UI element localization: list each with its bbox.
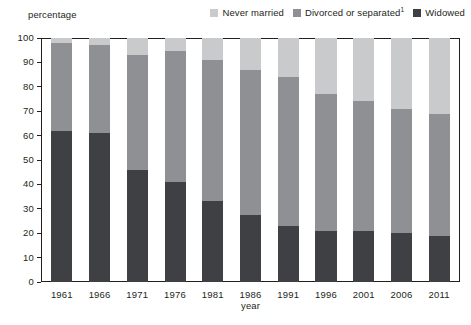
bar-segment-divorced-or-separated[interactable] bbox=[429, 114, 450, 236]
bar-segment-divorced-or-separated[interactable] bbox=[165, 51, 186, 182]
bar-slot bbox=[420, 38, 458, 282]
legend-label-never-married: Never married bbox=[222, 8, 283, 18]
bar-slot bbox=[43, 38, 81, 282]
stacked-bar[interactable] bbox=[240, 38, 261, 282]
bar-segment-widowed[interactable] bbox=[353, 231, 374, 282]
bar-segment-never-married[interactable] bbox=[127, 38, 148, 55]
legend-item-never-married[interactable]: Never married bbox=[210, 8, 283, 18]
bar-slot bbox=[156, 38, 194, 282]
bar-segment-never-married[interactable] bbox=[202, 38, 223, 60]
legend-swatch-divorced-or-separated bbox=[293, 9, 301, 17]
bar-segment-widowed[interactable] bbox=[202, 201, 223, 282]
bar-slot bbox=[194, 38, 232, 282]
legend-footnote-marker: 1 bbox=[401, 6, 405, 13]
bar-slot bbox=[345, 38, 383, 282]
bar-segment-never-married[interactable] bbox=[165, 38, 186, 51]
bar-segment-never-married[interactable] bbox=[353, 38, 374, 101]
stacked-bar[interactable] bbox=[89, 38, 110, 282]
y-axis-tick-label: 70 bbox=[23, 105, 34, 116]
bar-slot bbox=[307, 38, 345, 282]
y-axis-tick-label: 10 bbox=[23, 252, 34, 263]
bar-segment-widowed[interactable] bbox=[240, 215, 261, 282]
bar-segment-divorced-or-separated[interactable] bbox=[202, 60, 223, 202]
bar-segment-never-married[interactable] bbox=[391, 38, 412, 109]
stacked-bar[interactable] bbox=[315, 38, 336, 282]
bar-slot bbox=[269, 38, 307, 282]
x-axis-title: year bbox=[41, 300, 460, 311]
bar-segment-never-married[interactable] bbox=[278, 38, 299, 77]
bar-segment-divorced-or-separated[interactable] bbox=[51, 43, 72, 131]
bar-segment-widowed[interactable] bbox=[127, 170, 148, 282]
bar-segment-never-married[interactable] bbox=[89, 38, 110, 45]
y-axis-tick-label: 90 bbox=[23, 56, 34, 67]
stacked-bar[interactable] bbox=[127, 38, 148, 282]
y-axis-tick-label: 80 bbox=[23, 81, 34, 92]
legend-label-divorced-or-separated: Divorced or separated1 bbox=[305, 8, 404, 18]
bar-group bbox=[41, 38, 460, 282]
bar-segment-divorced-or-separated[interactable] bbox=[240, 70, 261, 215]
bar-slot bbox=[232, 38, 270, 282]
stacked-bar[interactable] bbox=[278, 38, 299, 282]
y-axis-tick-label: 0 bbox=[29, 276, 34, 287]
bar-segment-widowed[interactable] bbox=[429, 236, 450, 282]
plot-area-wrapper bbox=[41, 38, 460, 282]
bar-segment-widowed[interactable] bbox=[51, 131, 72, 282]
bar-segment-divorced-or-separated[interactable] bbox=[127, 55, 148, 170]
stacked-bar[interactable] bbox=[429, 38, 450, 282]
bar-segment-never-married[interactable] bbox=[315, 38, 336, 94]
bar-segment-divorced-or-separated[interactable] bbox=[391, 109, 412, 233]
bar-segment-widowed[interactable] bbox=[315, 231, 336, 282]
y-axis: 0102030405060708090100 bbox=[0, 38, 41, 282]
bar-segment-divorced-or-separated[interactable] bbox=[89, 45, 110, 133]
y-axis-tick-label: 50 bbox=[23, 154, 34, 165]
y-axis-tick-label: 20 bbox=[23, 227, 34, 238]
legend-label-widowed: Widowed bbox=[425, 8, 465, 18]
stacked-bar[interactable] bbox=[202, 38, 223, 282]
legend-item-divorced-or-separated[interactable]: Divorced or separated1 bbox=[293, 8, 404, 18]
bar-segment-never-married[interactable] bbox=[429, 38, 450, 114]
chart-legend: Never married Divorced or separated1 Wid… bbox=[210, 8, 465, 18]
stacked-bar[interactable] bbox=[51, 38, 72, 282]
bar-segment-widowed[interactable] bbox=[278, 226, 299, 282]
bar-segment-divorced-or-separated[interactable] bbox=[353, 101, 374, 230]
y-axis-tick-label: 30 bbox=[23, 203, 34, 214]
bar-slot bbox=[383, 38, 421, 282]
bar-slot bbox=[81, 38, 119, 282]
stacked-bar[interactable] bbox=[353, 38, 374, 282]
y-axis-tick-label: 100 bbox=[18, 32, 34, 43]
stacked-bar[interactable] bbox=[165, 38, 186, 282]
y-axis-tick-label: 40 bbox=[23, 178, 34, 189]
bar-segment-widowed[interactable] bbox=[165, 182, 186, 282]
chart-container: percentage Never married Divorced or sep… bbox=[0, 0, 471, 325]
stacked-bar[interactable] bbox=[391, 38, 412, 282]
bar-segment-never-married[interactable] bbox=[240, 38, 261, 70]
bar-slot bbox=[118, 38, 156, 282]
bar-segment-widowed[interactable] bbox=[89, 133, 110, 282]
bar-segment-divorced-or-separated[interactable] bbox=[315, 94, 336, 231]
legend-swatch-never-married bbox=[210, 9, 218, 17]
legend-item-widowed[interactable]: Widowed bbox=[413, 8, 465, 18]
y-axis-tick-label: 60 bbox=[23, 130, 34, 141]
bar-segment-widowed[interactable] bbox=[391, 233, 412, 282]
bar-segment-divorced-or-separated[interactable] bbox=[278, 77, 299, 226]
legend-swatch-widowed bbox=[413, 9, 421, 17]
y-axis-caption: percentage bbox=[28, 9, 77, 20]
